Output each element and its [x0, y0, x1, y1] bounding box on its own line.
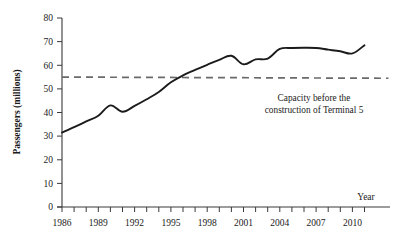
x-tick-label: 1995 [161, 218, 180, 228]
x-tick-label: 1986 [53, 218, 72, 228]
y-tick-label: 40 [44, 108, 54, 118]
capacity-annotation-line-2: construction of Terminal 5 [265, 105, 364, 115]
y-tick-label: 60 [44, 61, 54, 71]
y-axis-ticks [57, 18, 62, 207]
x-tick-label: 2004 [270, 218, 289, 228]
y-tick-label: 50 [44, 84, 54, 94]
x-tick-label: 1998 [198, 218, 217, 228]
x-tick-label: 1989 [89, 218, 108, 228]
x-tick-label: 2007 [307, 218, 326, 228]
y-tick-label: 0 [48, 202, 53, 212]
y-axis-tick-labels: 0 10 20 30 40 50 60 70 80 [44, 13, 54, 212]
x-axis-ticks [62, 207, 365, 212]
capacity-annotation: Capacity before the construction of Term… [265, 93, 364, 115]
x-tick-label: 1992 [125, 218, 144, 228]
capacity-annotation-line-1: Capacity before the [278, 93, 351, 103]
y-tick-label: 10 [44, 179, 54, 189]
y-tick-label: 30 [44, 131, 54, 141]
y-tick-label: 20 [44, 155, 54, 165]
x-tick-label: 2001 [234, 218, 253, 228]
y-tick-label: 80 [44, 13, 54, 23]
x-axis-tick-labels: 1986 1989 1992 1995 1998 2001 2004 2007 … [53, 218, 363, 228]
x-axis-title: Year [357, 192, 375, 202]
y-tick-label: 70 [44, 37, 54, 47]
x-tick-label: 2010 [343, 218, 362, 228]
capacity-reference-line [62, 77, 389, 78]
passenger-traffic-line-chart: Passengers (millions) 0 10 20 30 40 50 6… [0, 0, 410, 243]
chart-canvas: Passengers (millions) 0 10 20 30 40 50 6… [0, 0, 410, 243]
y-axis-title: Passengers (millions) [12, 69, 23, 154]
passengers-series-line [62, 45, 365, 132]
